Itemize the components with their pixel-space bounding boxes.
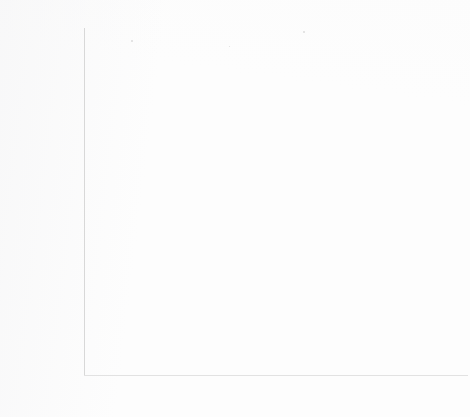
y-axis-tick-labels (38, 0, 78, 417)
scan-speckle (303, 31, 305, 33)
plot-area (84, 0, 470, 417)
scan-speckle (229, 46, 230, 47)
scan-speckle (131, 40, 133, 42)
bar-chart-figure (0, 0, 470, 417)
